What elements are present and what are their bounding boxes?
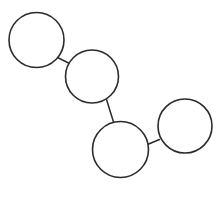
node-circle-2[interactable]	[66, 50, 119, 103]
node-circle-1[interactable]	[9, 13, 64, 68]
node-circle-4[interactable]	[158, 99, 212, 153]
node-circle-3[interactable]	[93, 122, 149, 178]
diagram-canvas	[0, 0, 222, 198]
diagram-svg	[0, 0, 222, 198]
